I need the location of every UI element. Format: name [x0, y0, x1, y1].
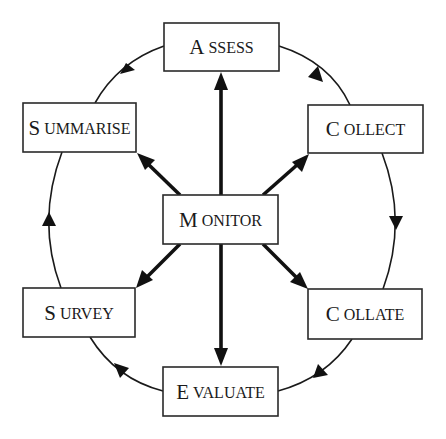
node-evaluate: E VALUATE	[163, 367, 278, 416]
node-label-collect: C OLLECT	[326, 117, 406, 141]
node-collate: C OLLATE	[308, 289, 422, 339]
node-survey: S URVEY	[23, 288, 135, 337]
arrowhead-icon	[313, 364, 328, 378]
arrowhead-icon	[214, 348, 228, 366]
node-monitor: M ONITOR	[163, 195, 278, 244]
node-summarise: S UMMARISE	[23, 103, 136, 152]
arrowhead-icon	[42, 212, 56, 226]
node-label-survey: S URVEY	[44, 301, 114, 325]
node-label-assess: A SSESS	[189, 35, 254, 59]
spoke-to-summarise	[148, 164, 180, 195]
arrowhead-icon	[214, 72, 228, 90]
arc-summarise-to-assess	[95, 46, 164, 103]
arc-collate-to-evaluate	[278, 339, 352, 391]
node-label-collate: C OLLATE	[326, 302, 404, 326]
arc-evaluate-to-survey	[90, 337, 163, 391]
node-label-evaluate: E VALUATE	[176, 380, 265, 404]
monitoring-cycle-diagram: A SSESS C OLLECT C OLLATE E VALUATE S UR…	[0, 0, 446, 439]
spoke-to-survey	[147, 244, 180, 277]
node-assess: A SSESS	[164, 23, 279, 71]
node-label-summarise: S UMMARISE	[29, 116, 131, 140]
spoke-to-collate	[263, 244, 296, 277]
node-collect: C OLLECT	[308, 105, 423, 153]
arrowhead-icon	[389, 216, 403, 230]
node-label-monitor: M ONITOR	[179, 208, 262, 232]
spoke-to-collect	[263, 165, 297, 195]
